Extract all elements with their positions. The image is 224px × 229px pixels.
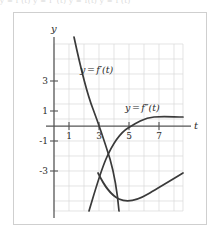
clipped-header-label: y = f'(t) y = f''(t) y = f(t) y = f'(t) [0, 0, 131, 6]
y-tick-label-1: 1 [35, 107, 48, 116]
clipped-header-text: y = f'(t) y = f''(t) y = f(t) y = f'(t) [0, 0, 224, 9]
curve-label-f-double-prime-arg: (t) [148, 102, 159, 113]
x-tick-label-5: 5 [124, 132, 134, 141]
curve-lower-branch [98, 173, 183, 201]
curve-label-f-prime: y=f′(t) [80, 65, 113, 75]
y-axis-label: y [51, 24, 57, 34]
curve-label-f-prime-op: = [85, 64, 96, 75]
curve-label-f-prime-arg: (t) [102, 64, 113, 75]
x-tick-label-7: 7 [154, 132, 164, 141]
y-tick-label-neg3: -3 [30, 167, 48, 176]
plot-svg [14, 13, 208, 226]
plot-area: y t 1 3 5 7 3 1 -1 -3 y=f′(t) y=f″(t) [14, 13, 208, 226]
figure-card: y t 1 3 5 7 3 1 -1 -3 y=f′(t) y=f″(t) [13, 12, 207, 225]
curve-label-f-double-prime: y=f″(t) [125, 103, 160, 113]
figure-page: y = f'(t) y = f''(t) y = f(t) y = f'(t) [0, 0, 224, 229]
axes [46, 37, 191, 218]
y-tick-label-neg1: -1 [30, 137, 48, 146]
x-tick-label-1: 1 [64, 132, 74, 141]
y-tick-label-3: 3 [35, 77, 48, 86]
curve-f-double-prime [89, 117, 183, 211]
grid-lines [54, 44, 183, 211]
x-axis-label: t [194, 121, 198, 131]
x-tick-label-3: 3 [94, 132, 104, 141]
curve-label-f-double-prime-op: = [130, 102, 141, 113]
